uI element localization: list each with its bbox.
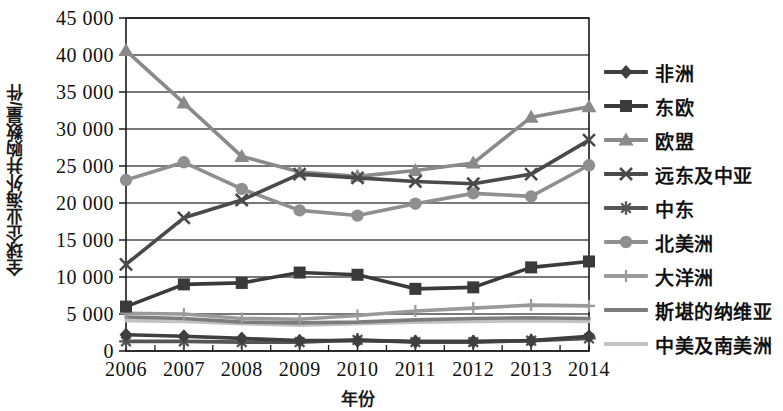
legend-label: 中东 — [655, 195, 694, 222]
legend-marker-cross-icon — [616, 164, 636, 184]
data-point-marker-triangle — [619, 133, 634, 146]
legend-item-0[interactable]: 非洲 — [604, 55, 782, 89]
x-tick-label: 2013 — [510, 358, 552, 381]
x-tick-label: 2011 — [395, 358, 436, 381]
legend-label: 斯堪的纳维亚 — [655, 297, 772, 324]
legend-item-1[interactable]: 东欧 — [604, 89, 782, 123]
legend-swatch-triangle-icon — [604, 130, 648, 150]
legend-label: 中美及南美洲 — [655, 331, 772, 358]
data-point-marker-diamond — [620, 65, 633, 79]
legend-swatch-cross-icon — [604, 164, 648, 184]
circle-marker — [620, 236, 632, 248]
legend-label: 远东及中亚 — [655, 161, 753, 188]
x-tick-label: 2010 — [337, 358, 379, 381]
legend-label: 北美洲 — [655, 229, 714, 256]
legend-marker-asterisk-icon — [616, 198, 636, 218]
triangle-marker — [619, 133, 634, 146]
x-tick-label: 2007 — [163, 358, 205, 381]
legend-label: 大洋洲 — [655, 263, 714, 290]
legend-item-5[interactable]: 北美洲 — [604, 225, 782, 259]
legend-item-3[interactable]: 远东及中亚 — [604, 157, 782, 191]
x-tick-label: 2009 — [279, 358, 321, 381]
legend-line — [604, 308, 648, 312]
legend-swatch-asterisk-icon — [604, 198, 648, 218]
legend-item-7[interactable]: 斯堪的纳维亚 — [604, 293, 782, 327]
x-marker — [620, 168, 632, 180]
legend-label: 东欧 — [655, 93, 694, 120]
x-tick-label: 2014 — [568, 358, 610, 381]
legend-swatch-diamond-icon — [604, 62, 648, 82]
legend-marker-plus-icon — [616, 266, 636, 286]
legend-swatch-square-icon — [604, 96, 648, 116]
legend-marker-circle-icon — [616, 232, 636, 252]
legend-marker-triangle-icon — [616, 130, 636, 150]
plus-marker — [620, 270, 632, 282]
x-tick-label: 2008 — [221, 358, 263, 381]
legend-marker-diamond-icon — [616, 62, 636, 82]
legend-swatch-plus-icon — [604, 266, 648, 286]
asterisk-marker — [619, 201, 633, 215]
data-point-marker-asterisk — [619, 201, 633, 215]
x-tick-label: 2012 — [452, 358, 494, 381]
x-tick-label: 2006 — [105, 358, 147, 381]
square-marker — [620, 100, 632, 112]
x-axis-title: 年份 — [126, 385, 589, 410]
data-point-marker-cross — [620, 168, 632, 180]
legend-item-2[interactable]: 欧盟 — [604, 123, 782, 157]
legend-marker-square-icon — [616, 96, 636, 116]
legend-item-4[interactable]: 中东 — [604, 191, 782, 225]
legend-line — [604, 342, 648, 346]
data-point-marker-square — [620, 100, 632, 112]
chart-legend: 非洲东欧欧盟远东及中亚中东北美洲大洋洲斯堪的纳维亚中美及南美洲 — [604, 55, 782, 361]
legend-item-6[interactable]: 大洋洲 — [604, 259, 782, 293]
legend-swatch-none-icon — [604, 300, 648, 320]
chart-container: 全球企业海外并购数量/件 05 00010 00015 00020 00025 … — [0, 0, 783, 411]
legend-label: 非洲 — [655, 59, 694, 86]
legend-swatch-none-icon — [604, 334, 648, 354]
data-point-marker-plus — [620, 270, 632, 282]
legend-swatch-circle-icon — [604, 232, 648, 252]
legend-item-8[interactable]: 中美及南美洲 — [604, 327, 782, 361]
legend-label: 欧盟 — [655, 127, 694, 154]
diamond-marker — [620, 65, 633, 79]
data-point-marker-circle — [620, 236, 632, 248]
